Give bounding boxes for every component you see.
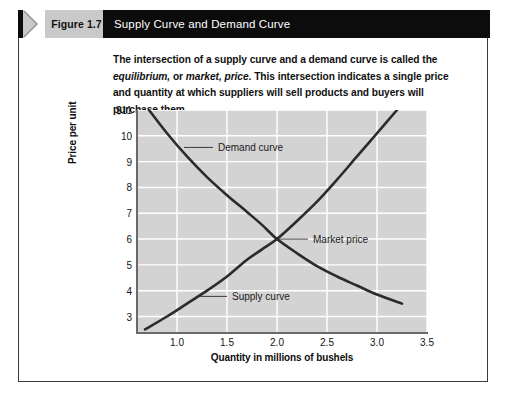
figure-container: Figure 1.7 Supply Curve and Demand Curve…: [18, 10, 490, 384]
y-tick-label: 6: [126, 234, 132, 245]
chart: Price per unit Quantity in millions of b…: [75, 104, 475, 369]
figure-title: Supply Curve and Demand Curve: [114, 10, 290, 38]
y-tick-label: 10: [121, 130, 132, 141]
y-axis-title: Price per unit: [67, 101, 78, 164]
chevron-right-icon: [23, 10, 45, 38]
y-tick-label: 5: [126, 259, 132, 270]
y-axis-line: [136, 110, 138, 333]
caption-text-1: The intersection of a supply curve and a…: [113, 54, 437, 65]
y-tick-label: 4: [126, 285, 132, 296]
y-tick-label: $11: [116, 105, 132, 116]
curve-demand-curve: [149, 110, 402, 304]
caption-text-2: or: [173, 71, 186, 82]
demand-curve-label: Demand curve: [218, 142, 283, 153]
x-tick-label: 3.0: [370, 337, 384, 348]
x-axis-title: Quantity in millions of bushels: [137, 352, 427, 363]
plot-wrapper: $11109876543 1.01.52.02.53.03.5 Demand c…: [137, 110, 427, 332]
x-tick-label: 2.0: [270, 337, 284, 348]
figure-body: The intersection of a supply curve and a…: [18, 38, 488, 382]
figure-header: Figure 1.7 Supply Curve and Demand Curve: [18, 10, 490, 38]
annotation-leaders: [184, 147, 308, 296]
figure-number-label: Figure 1.7: [45, 10, 108, 38]
market-price-label: Market price: [313, 234, 368, 245]
y-tick-label: 3: [126, 311, 132, 322]
y-tick-label: 7: [126, 208, 132, 219]
x-axis-line: [136, 332, 428, 334]
x-tick-label: 1.0: [170, 337, 184, 348]
x-tick-label: 1.5: [220, 337, 234, 348]
caption-emphasis-market-price: market, price: [186, 71, 249, 82]
figure-number-tab: Figure 1.7: [23, 10, 103, 38]
x-tick-label: 3.5: [420, 337, 434, 348]
x-tick-label: 2.5: [320, 337, 334, 348]
supply-curve-label: Supply curve: [232, 291, 290, 302]
caption-emphasis-equilibrium: equilibrium,: [113, 71, 170, 82]
y-tick-label: 8: [126, 182, 132, 193]
y-tick-label: 9: [126, 156, 132, 167]
